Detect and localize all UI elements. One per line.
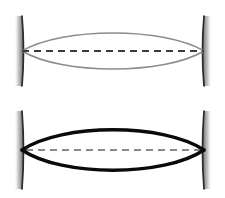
panel-background-top (0, 0, 225, 99)
cavity-panel-top (0, 0, 225, 99)
cavity-diagram-bottom (0, 99, 225, 198)
optical-cavity-figure (0, 0, 225, 198)
cavity-panel-bottom (0, 99, 225, 198)
cavity-diagram-top (0, 0, 225, 99)
panel-background-bottom (0, 99, 225, 198)
